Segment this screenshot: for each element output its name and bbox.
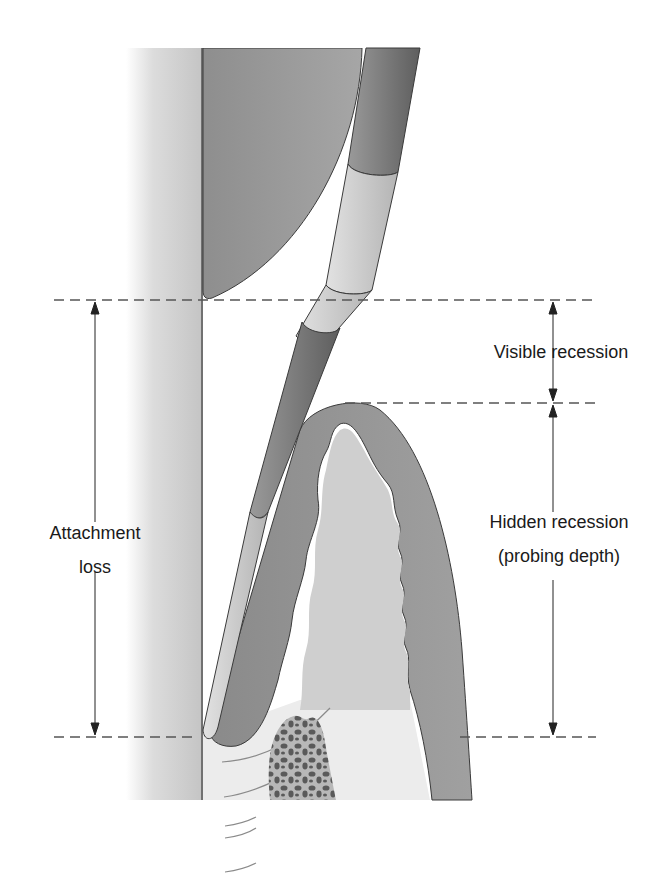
diagram-canvas	[0, 0, 671, 887]
hidden-recession-label: Hidden recession (probing depth)	[474, 511, 644, 567]
periodontal-diagram: Visible recession Hidden recession (prob…	[0, 0, 671, 887]
attachment-loss-line2: loss	[30, 556, 160, 578]
visible-recession-label: Visible recession	[478, 341, 644, 363]
attachment-loss-label: Attachment loss	[30, 522, 160, 578]
hidden-recession-line1: Hidden recession	[474, 511, 644, 533]
tooth-root	[126, 48, 203, 800]
attachment-loss-line1: Attachment	[30, 522, 160, 544]
hidden-recession-line2: (probing depth)	[474, 545, 644, 567]
